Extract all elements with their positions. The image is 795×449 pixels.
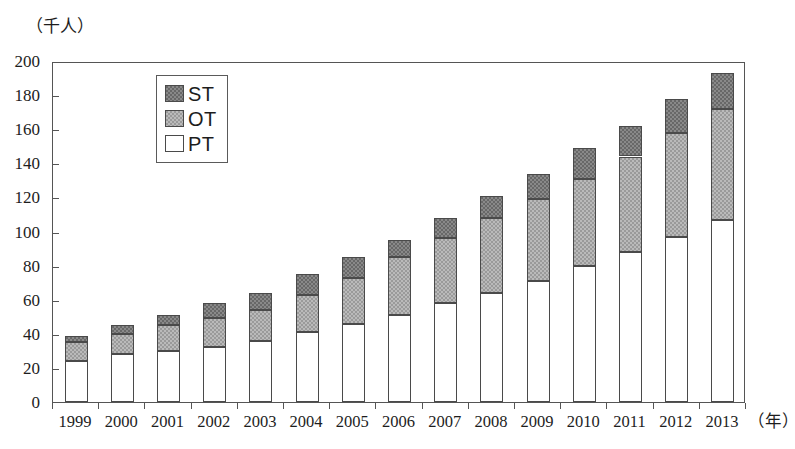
x-axis-unit-caption: （年）: [748, 412, 795, 432]
bar-segment-pt: [434, 303, 457, 402]
x-axis-tick-mark: [699, 403, 700, 409]
bar-segment-ot: [342, 278, 365, 324]
legend-swatch-st-icon: [165, 85, 184, 102]
bar-segment-st: [527, 174, 550, 200]
legend-swatch-ot-icon: [165, 110, 184, 127]
y-axis-tick-mark: [52, 301, 59, 302]
bar-2006: [388, 240, 411, 402]
chart-root: （千人） STOTPT 020406080100120140160180200 …: [0, 0, 795, 449]
y-axis-tick-label: 160: [15, 119, 41, 140]
bar-segment-st: [65, 336, 88, 343]
bar-2003: [249, 293, 272, 402]
bar-segment-ot: [388, 257, 411, 315]
bar-segment-pt: [619, 252, 642, 402]
bar-2011: [619, 126, 642, 402]
y-axis-tick-mark: [52, 369, 59, 370]
bar-segment-ot: [157, 325, 180, 351]
y-axis-tick-label: 40: [23, 324, 40, 345]
x-axis-tick-label: 2000: [105, 412, 138, 432]
x-axis-tick-mark: [468, 403, 469, 409]
y-axis-tick-mark: [52, 233, 59, 234]
bar-2005: [342, 257, 365, 402]
x-axis-tick-mark: [283, 403, 284, 409]
x-axis-tick-label: 2009: [521, 412, 554, 432]
bar-2012: [665, 99, 688, 402]
y-axis-unit-caption: （千人）: [26, 12, 94, 37]
x-axis-tick-label: 2004: [290, 412, 323, 432]
bar-segment-ot: [296, 295, 319, 333]
x-axis-tick-label: 2011: [613, 412, 645, 432]
legend-item-ot[interactable]: OT: [165, 106, 217, 131]
bar-segment-st: [434, 218, 457, 238]
x-axis-tick-mark: [606, 403, 607, 409]
x-axis-tick-label: 2013: [705, 412, 738, 432]
bar-segment-ot: [111, 334, 134, 354]
bar-2004: [296, 274, 319, 402]
bar-segment-st: [203, 303, 226, 318]
bar-1999: [65, 336, 88, 402]
bar-segment-pt: [111, 354, 134, 402]
bar-segment-st: [249, 293, 272, 310]
bar-2002: [203, 303, 226, 402]
bar-segment-st: [388, 240, 411, 257]
bar-segment-ot: [665, 133, 688, 237]
x-axis-tick-label: 2007: [428, 412, 461, 432]
x-axis-tick-mark: [375, 403, 376, 409]
bar-segment-pt: [157, 351, 180, 402]
x-axis-tick-mark: [514, 403, 515, 409]
bar-segment-pt: [573, 266, 596, 402]
bar-2001: [157, 315, 180, 402]
bar-segment-pt: [527, 281, 550, 402]
bar-2007: [434, 218, 457, 402]
bar-segment-pt: [388, 315, 411, 402]
bar-segment-st: [480, 196, 503, 218]
x-axis-tick-mark: [422, 403, 423, 409]
bar-segment-st: [711, 73, 734, 109]
bar-segment-pt: [665, 237, 688, 402]
x-axis-tick-label: 2010: [567, 412, 600, 432]
bar-segment-ot: [249, 310, 272, 341]
y-axis-tick-label: 0: [32, 392, 41, 413]
x-axis-tick-label: 2008: [474, 412, 507, 432]
bar-segment-pt: [711, 220, 734, 402]
bar-2000: [111, 325, 134, 402]
y-axis-tick-mark: [52, 267, 59, 268]
x-axis-tick-mark: [144, 403, 145, 409]
x-axis-tick-label: 2012: [659, 412, 692, 432]
bar-2010: [573, 148, 596, 402]
x-axis-tick-mark: [560, 403, 561, 409]
bar-2013: [711, 73, 734, 402]
x-axis-tick-mark: [237, 403, 238, 409]
bar-segment-ot: [434, 238, 457, 303]
legend-item-st[interactable]: ST: [165, 81, 217, 106]
bar-segment-ot: [480, 218, 503, 293]
y-axis-tick-label: 80: [23, 256, 40, 277]
bar-segment-ot: [527, 199, 550, 281]
x-axis-tick-mark: [745, 403, 746, 409]
x-axis-tick-mark: [191, 403, 192, 409]
y-axis-tick-label: 180: [15, 85, 41, 106]
x-axis-tick-mark: [52, 403, 53, 409]
y-axis-tick-label: 20: [23, 358, 40, 379]
bar-segment-st: [573, 148, 596, 179]
bar-segment-st: [342, 257, 365, 277]
bar-segment-pt: [296, 332, 319, 402]
bar-segment-st: [665, 99, 688, 133]
bar-segment-ot: [619, 157, 642, 252]
bar-segment-ot: [573, 179, 596, 266]
bar-segment-ot: [711, 109, 734, 220]
legend-item-pt[interactable]: PT: [165, 131, 217, 156]
legend-label-st: ST: [188, 83, 215, 105]
bar-segment-st: [296, 274, 319, 294]
bar-segment-ot: [203, 318, 226, 347]
bar-segment-ot: [65, 342, 88, 361]
bar-2008: [480, 196, 503, 402]
y-axis-tick-mark: [52, 164, 59, 165]
x-axis-tick-label: 1999: [59, 412, 92, 432]
legend-label-ot: OT: [188, 108, 217, 130]
legend: STOTPT: [156, 75, 228, 163]
y-axis-tick-label: 200: [15, 51, 41, 72]
y-axis-tick-mark: [52, 198, 59, 199]
bar-segment-pt: [203, 347, 226, 402]
bar-segment-pt: [65, 361, 88, 402]
